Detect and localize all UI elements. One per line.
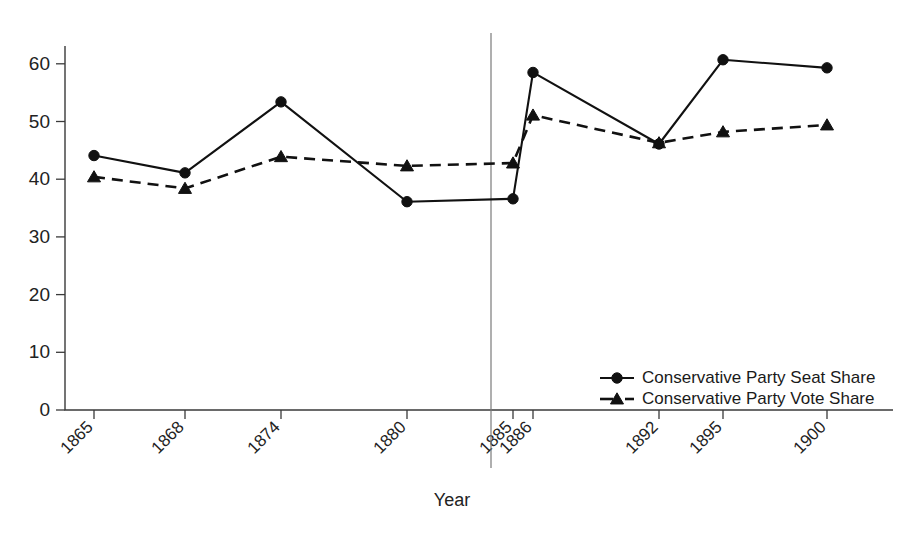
data-point-marker xyxy=(718,55,728,65)
data-point-marker xyxy=(274,150,287,161)
y-tick-label: 20 xyxy=(29,284,50,305)
legend-item-seat-share[interactable]: Conservative Party Seat Share xyxy=(600,368,875,387)
data-point-marker xyxy=(276,97,286,107)
y-tick-label: 10 xyxy=(29,341,50,362)
data-point-marker xyxy=(508,194,518,204)
x-tick-label: 1900 xyxy=(790,417,830,457)
legend-label: Conservative Party Seat Share xyxy=(642,368,875,387)
y-tick-label: 30 xyxy=(29,226,50,247)
data-point-marker xyxy=(180,168,190,178)
y-tick-label: 40 xyxy=(29,168,50,189)
data-point-marker xyxy=(526,109,539,120)
x-axis-group: 186518681874188018851886189218951900 xyxy=(57,410,830,458)
x-tick-label: 1892 xyxy=(622,417,662,457)
axis-spines xyxy=(65,46,893,410)
y-axis-group: 0102030405060 xyxy=(29,53,65,420)
x-tick-label: 1865 xyxy=(57,417,97,457)
x-tick-label: 1868 xyxy=(148,417,188,457)
data-point-marker xyxy=(820,119,833,130)
legend-item-vote-share[interactable]: Conservative Party Vote Share xyxy=(600,389,874,408)
chart-figure: 0102030405060186518681874188018851886189… xyxy=(0,0,911,533)
data-point-marker xyxy=(89,150,99,160)
y-tick-label: 50 xyxy=(29,111,50,132)
y-tick-label: 60 xyxy=(29,53,50,74)
series-markers-vote-share xyxy=(87,109,833,193)
y-tick-label: 0 xyxy=(39,399,50,420)
data-point-marker xyxy=(528,67,538,77)
legend-circle-marker xyxy=(612,373,622,383)
x-tick-label: 1874 xyxy=(244,417,284,457)
series-line-seat-share xyxy=(94,60,827,202)
data-point-marker xyxy=(402,197,412,207)
legend: Conservative Party Seat ShareConservativ… xyxy=(600,368,875,408)
x-tick-label: 1895 xyxy=(686,417,726,457)
x-axis-title: Year xyxy=(434,490,470,510)
x-tick-label: 1880 xyxy=(370,417,410,457)
line-chart-canvas: 0102030405060186518681874188018851886189… xyxy=(0,0,911,533)
series-line-vote-share xyxy=(94,115,827,188)
data-point-marker xyxy=(822,63,832,73)
legend-label: Conservative Party Vote Share xyxy=(642,389,874,408)
